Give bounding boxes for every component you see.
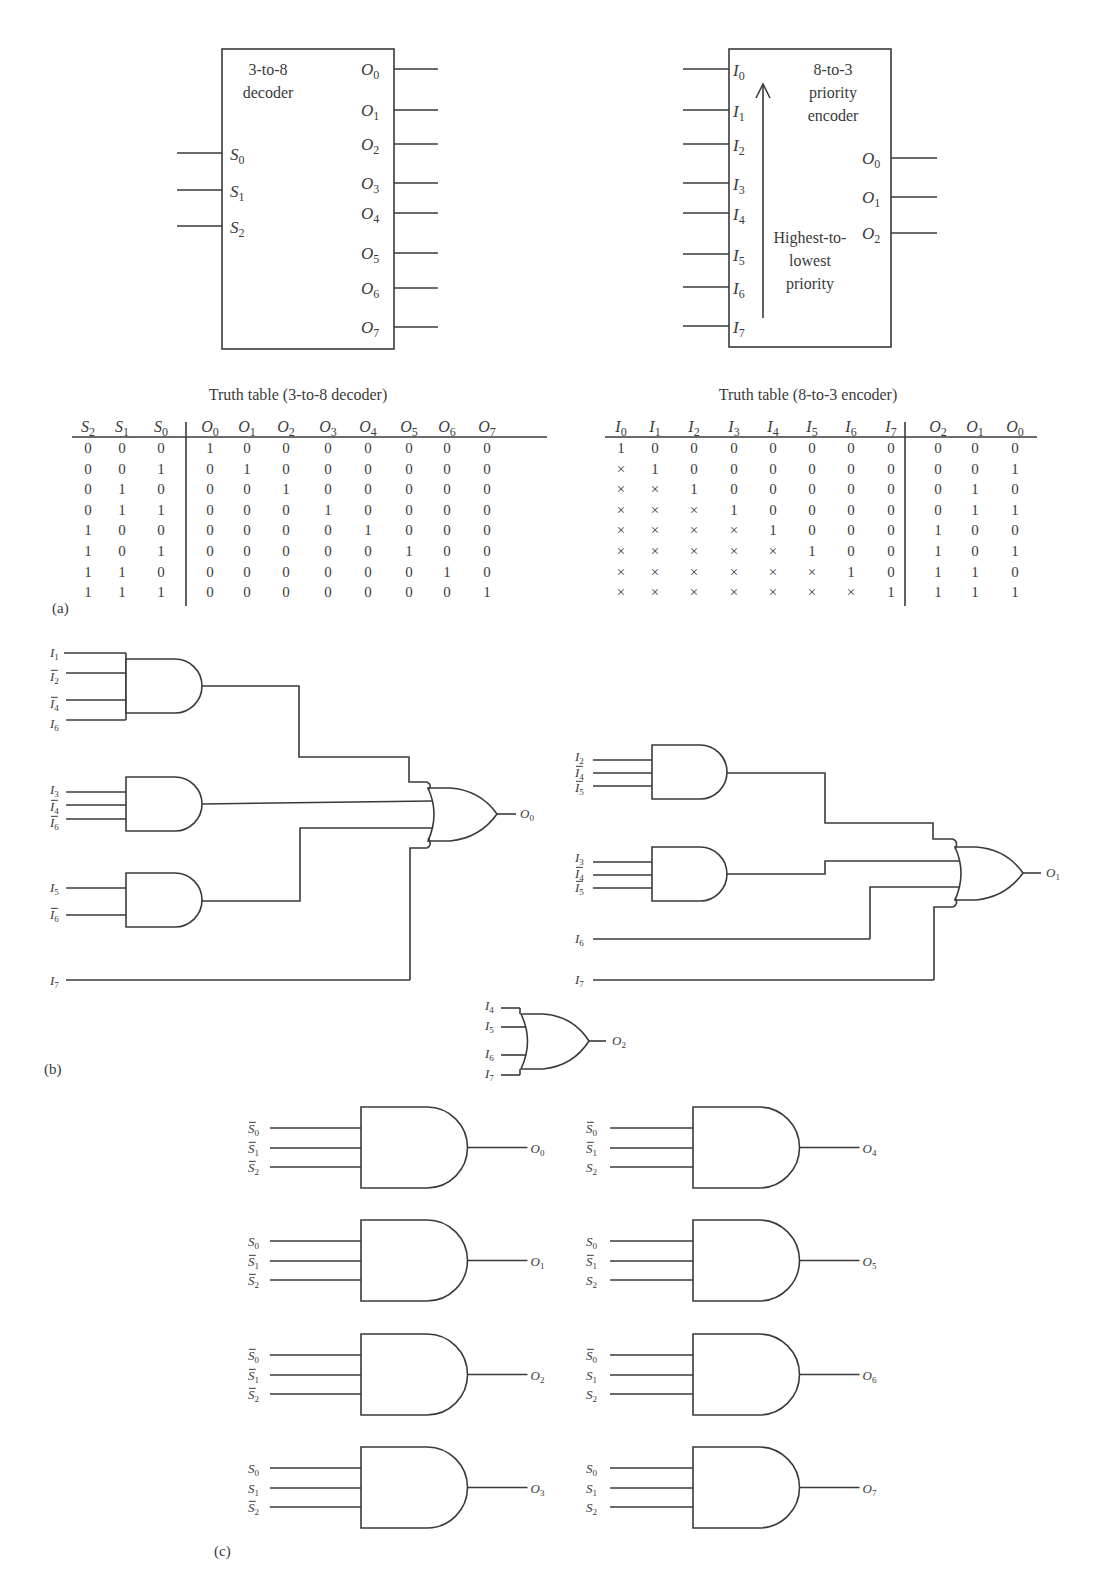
and-gate [693, 1107, 800, 1188]
table-cell: 1 [118, 481, 126, 497]
decoder-gate-input-label: S2 [248, 1500, 259, 1517]
table-cell: 1 [157, 543, 165, 559]
table-cell: × [730, 584, 738, 600]
table-header: I2 [687, 418, 699, 439]
decoder-title-1: 3-to-8 [248, 61, 287, 78]
decoder-gate-input-label: S0 [248, 1234, 260, 1251]
table-cell: 0 [364, 584, 372, 600]
table-cell: 0 [483, 564, 491, 580]
table-cell: 0 [282, 502, 290, 518]
table-cell: 0 [243, 543, 251, 559]
encoder-outputs: O0O1O2 [862, 149, 937, 246]
table-cell: 1 [617, 440, 625, 456]
priority-text-1: Highest-to- [774, 229, 847, 247]
decoder-gate-input-label: S2 [586, 1500, 597, 1517]
table-cell: 0 [971, 440, 979, 456]
table-cell: 0 [243, 481, 251, 497]
table-cell: 0 [206, 461, 214, 477]
table-header: I6 [844, 418, 856, 439]
table-cell: 0 [808, 481, 816, 497]
table-row: 10000000000 [617, 440, 1019, 456]
circuit-output-label: O0 [520, 806, 534, 823]
table-row: ××××××10110 [617, 564, 1019, 580]
table-cell: 1 [934, 584, 942, 600]
table-cell: 0 [405, 522, 413, 538]
table-cell: 0 [243, 440, 251, 456]
logic-figure: 3-to-8 decoder S0S1S2 O0O1O2O3O4O5O6O7 8… [0, 0, 1097, 1587]
table-header: O3 [319, 418, 337, 439]
table-cell: 0 [324, 584, 332, 600]
table-cell: × [651, 502, 659, 518]
table-cell: × [847, 584, 855, 600]
table-row: ×××××100101 [617, 543, 1019, 559]
table-cell: × [617, 461, 625, 477]
table-cell: 1 [282, 481, 290, 497]
table-cell: 0 [243, 584, 251, 600]
decoder-gate-input-label: S1 [248, 1254, 259, 1271]
table-cell: 0 [483, 522, 491, 538]
table-cell: × [769, 564, 777, 580]
table-cell: 0 [118, 522, 126, 538]
table-header: O1 [966, 418, 984, 439]
table-row: ××××1000100 [617, 522, 1019, 538]
table-cell: 0 [118, 543, 126, 559]
panel-label-b: (b) [44, 1061, 62, 1078]
table-cell: 0 [483, 481, 491, 497]
encoder-gate-circuit: I1I2I4I6I3I4I6I5I6I7O0I2I4I5I3I4I5I6I7O1… [49, 645, 1060, 1083]
table-cell: 0 [243, 522, 251, 538]
table-cell: 0 [769, 502, 777, 518]
table-cell: 0 [157, 481, 165, 497]
table-cell: 0 [405, 440, 413, 456]
table-cell: 0 [730, 461, 738, 477]
table-header: O1 [238, 418, 256, 439]
table-cell: 1 [157, 584, 165, 600]
encoder-truth-table-title: Truth table (8-to-3 encoder) [719, 386, 897, 404]
and-gate [361, 1220, 468, 1301]
circuit-input-label: I2 [574, 749, 584, 766]
table-cell: 0 [443, 440, 451, 456]
decoder-gate-output-label: O7 [863, 1481, 877, 1498]
table-row: ×1000000001 [617, 461, 1019, 477]
table-header: O6 [438, 418, 456, 439]
table-cell: 0 [157, 522, 165, 538]
table-header: I3 [727, 418, 739, 439]
table-cell: 0 [887, 461, 895, 477]
table-cell: 1 [443, 564, 451, 580]
table-cell: 0 [282, 564, 290, 580]
table-cell: 1 [405, 543, 413, 559]
panel-label-a: (a) [52, 600, 69, 617]
decoder-gate-input-label: S0 [248, 1121, 260, 1138]
table-row: 10000001000 [84, 522, 491, 538]
table-cell: × [617, 564, 625, 580]
table-row: 10100000100 [84, 543, 491, 559]
and-gate [361, 1447, 468, 1528]
table-cell: 0 [282, 461, 290, 477]
table-cell: × [690, 564, 698, 580]
table-cell: 0 [364, 461, 372, 477]
table-row: ×××10000011 [617, 502, 1019, 518]
decoder-gate-input-label: S0 [586, 1234, 598, 1251]
decoder-gate-input-label: S1 [586, 1254, 597, 1271]
encoder-block: 8-to-3 priority encoder Highest-to- lowe… [683, 49, 937, 347]
table-cell: 0 [730, 481, 738, 497]
and-gate [693, 1334, 800, 1415]
table-cell: 1 [971, 564, 979, 580]
decoder-and-gate-3: S0S1S2O3 [248, 1447, 545, 1528]
table-cell: 0 [206, 502, 214, 518]
table-cell: 0 [324, 461, 332, 477]
table-cell: 0 [1011, 522, 1019, 538]
circuit-input-label: I5 [484, 1018, 494, 1035]
table-cell: 0 [847, 461, 855, 477]
decoder-and-gate-6: S0S1S2O6 [586, 1334, 877, 1415]
circuit-input-label: I5 [574, 780, 584, 797]
table-cell: 0 [971, 543, 979, 559]
decoder-gate-output-label: O5 [863, 1254, 877, 1271]
decoder-gate-circuit: S0S1S2O0S0S1S2O1S0S1S2O2S0S1S2O3S0S1S2O4… [248, 1107, 877, 1528]
table-cell: 1 [934, 522, 942, 538]
decoder-truth-table-title: Truth table (3-to-8 decoder) [209, 386, 387, 404]
encoder-title-2: priority [809, 84, 857, 102]
table-cell: 0 [282, 543, 290, 559]
table-cell: 0 [84, 440, 92, 456]
table-cell: 0 [364, 481, 372, 497]
decoder-inputs: S0S1S2 [177, 145, 245, 240]
